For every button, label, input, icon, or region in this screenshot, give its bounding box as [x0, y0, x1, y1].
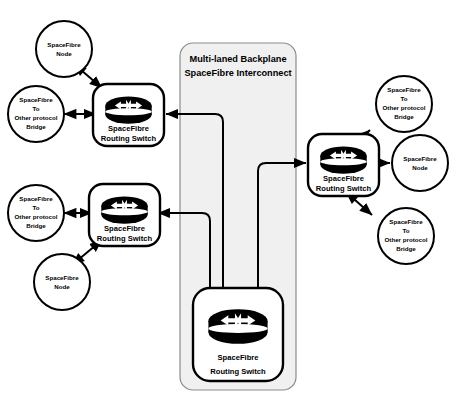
bridge-left-lower-line1: SpaceFibre	[19, 195, 53, 202]
bridge-right-lower-line2: To	[402, 227, 409, 234]
bridge-left-upper-line4: Bridge	[26, 123, 46, 130]
bridge-right-lower-line1: SpaceFibre	[389, 218, 423, 225]
bridge-right-upper-line2: To	[400, 95, 407, 102]
node-bottom-left-line2: Node	[54, 283, 70, 290]
topology-diagram: Multi-laned Backplane SpaceFibre Interco…	[0, 0, 468, 406]
router-icon	[320, 147, 366, 174]
node-top-left-line1: SpaceFibre	[47, 41, 81, 48]
diagram-canvas: Multi-laned Backplane SpaceFibre Interco…	[0, 0, 468, 406]
panel-title-line1: Multi-laned Backplane	[190, 54, 287, 64]
switch-middle-left-line1: SpaceFibre	[104, 224, 145, 233]
bridge-left-upper-line3: Other protocol	[15, 114, 58, 121]
node-right-line1: SpaceFibre	[403, 155, 437, 162]
switch-backplane-bottom-line1: SpaceFibre	[218, 353, 259, 362]
node-right[interactable]: SpaceFibre Node	[392, 135, 448, 191]
bridge-left-upper-line1: SpaceFibre	[19, 96, 53, 103]
switch-right[interactable]: SpaceFibre Routing Switch	[308, 134, 379, 196]
bridge-right-upper-line4: Bridge	[394, 113, 414, 120]
switch-backplane-bottom[interactable]: SpaceFibre Routing Switch	[193, 288, 283, 381]
node-top-left-line2: Node	[56, 50, 72, 57]
node-bottom-left[interactable]: SpaceFibre Node	[34, 254, 90, 310]
router-icon	[101, 197, 147, 224]
switch-right-line1: SpaceFibre	[323, 174, 364, 183]
node-top-left[interactable]: SpaceFibre Node	[36, 21, 92, 77]
bridge-right-lower-line3: Other protocol	[385, 236, 428, 243]
bridge-left-lower-line2: To	[32, 204, 39, 211]
node-bottom-left-line1: SpaceFibre	[45, 274, 79, 281]
switch-top-left-line2: Routing Switch	[101, 134, 157, 143]
node-right-line2: Node	[412, 164, 428, 171]
panel-title-line2: SpaceFibre Interconnect	[184, 68, 291, 78]
router-icon	[208, 309, 267, 344]
node-bottom-left-shape	[34, 254, 90, 310]
bridge-right-lower-line4: Bridge	[396, 245, 416, 252]
switch-middle-left[interactable]: SpaceFibre Routing Switch	[89, 184, 160, 246]
bridge-left-lower[interactable]: SpaceFibre To Other protocol Bridge	[8, 185, 64, 241]
switch-backplane-bottom-line2: Routing Switch	[210, 367, 266, 376]
bridge-right-upper-line3: Other protocol	[383, 104, 426, 111]
switch-top-left[interactable]: SpaceFibre Routing Switch	[93, 84, 164, 146]
router-icon	[105, 97, 151, 124]
bridge-left-lower-line3: Other protocol	[15, 213, 58, 220]
node-top-left-shape	[36, 21, 92, 77]
bridge-right-lower[interactable]: SpaceFibre To Other protocol Bridge	[378, 208, 434, 264]
node-right-shape	[392, 135, 448, 191]
bridge-right-upper[interactable]: SpaceFibre To Other protocol Bridge	[376, 76, 432, 132]
bridge-left-upper-line2: To	[32, 105, 39, 112]
switch-top-left-line1: SpaceFibre	[108, 124, 149, 133]
switch-right-line2: Routing Switch	[316, 184, 372, 193]
bridge-left-lower-line4: Bridge	[26, 222, 46, 229]
switch-middle-left-line2: Routing Switch	[97, 234, 153, 243]
bridge-right-upper-line1: SpaceFibre	[387, 86, 421, 93]
bridge-left-upper[interactable]: SpaceFibre To Other protocol Bridge	[8, 86, 64, 142]
